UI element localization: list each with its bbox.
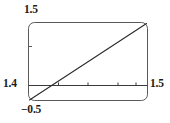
- x-min-tick-label: −0.5: [21, 104, 41, 116]
- chart-figure: 1.5 1.4 −0.5 1.5: [0, 0, 170, 123]
- x-max-tick-label: 1.5: [150, 78, 164, 90]
- y-axis-tick-label: 1.4: [3, 78, 17, 90]
- data-line-series: [30, 24, 147, 101]
- y-max-tick-label: 1.5: [24, 4, 38, 16]
